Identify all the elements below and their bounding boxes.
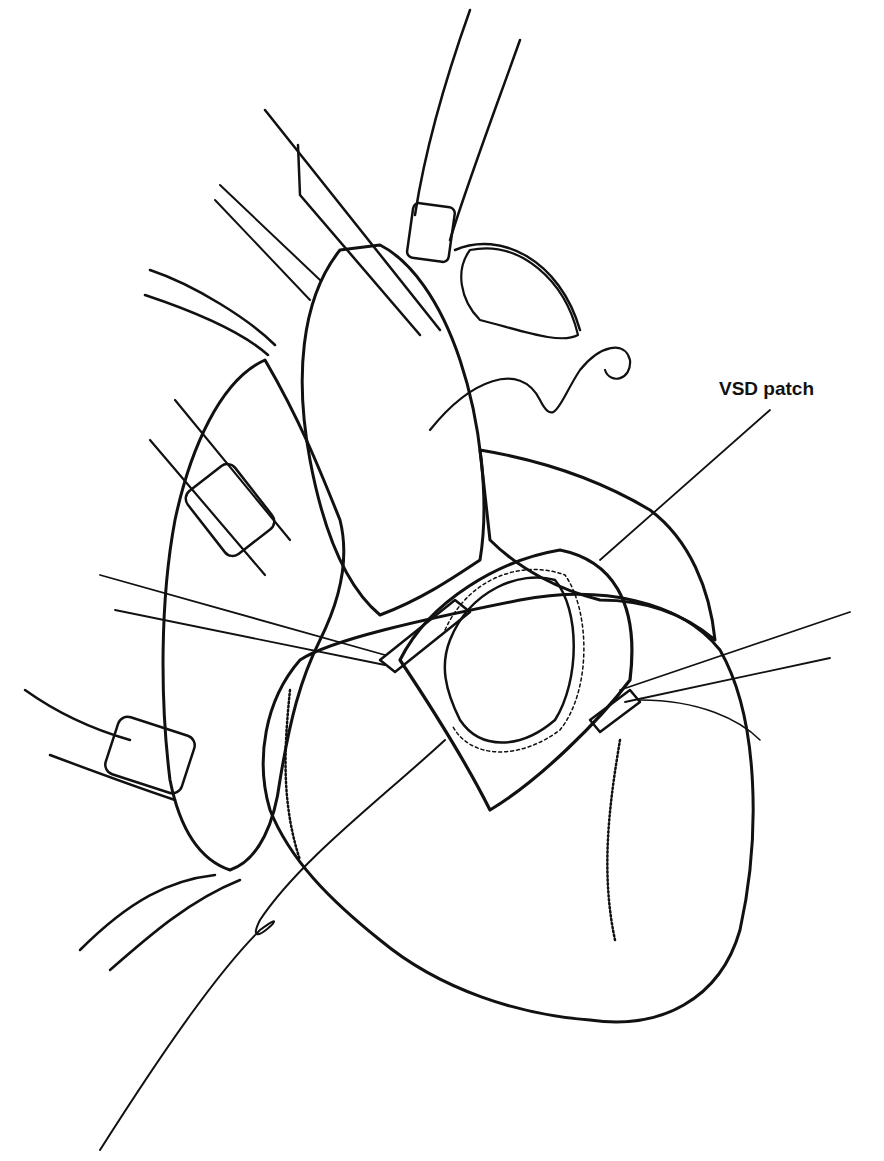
heart-surgery-drawing (0, 0, 884, 1161)
stay-sutures (100, 348, 850, 1150)
cannulas (25, 10, 520, 970)
retractors (380, 600, 640, 732)
coronary-vessels (286, 690, 760, 940)
illustration-canvas: VSD patch (0, 0, 884, 1161)
left-ventricle-upper (480, 450, 715, 640)
vsd-patch-leader-line (600, 410, 770, 560)
right-atrium (163, 360, 344, 870)
vsd-patch-label: VSD patch (719, 378, 814, 400)
ventricle (263, 594, 753, 1021)
